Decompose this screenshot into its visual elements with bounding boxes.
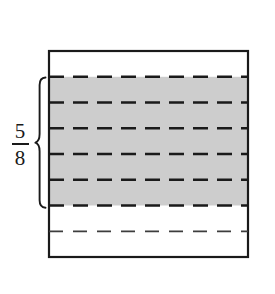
brace-icon — [35, 78, 45, 208]
fraction-numerator: 5 — [6, 120, 34, 142]
shaded-region — [49, 77, 248, 206]
fraction-denominator: 8 — [6, 147, 34, 169]
fraction-vinculum — [12, 143, 29, 145]
fraction-diagram — [0, 0, 275, 294]
fraction-area-model-figure: 5 8 — [0, 0, 275, 294]
fraction-label: 5 8 — [6, 120, 34, 169]
